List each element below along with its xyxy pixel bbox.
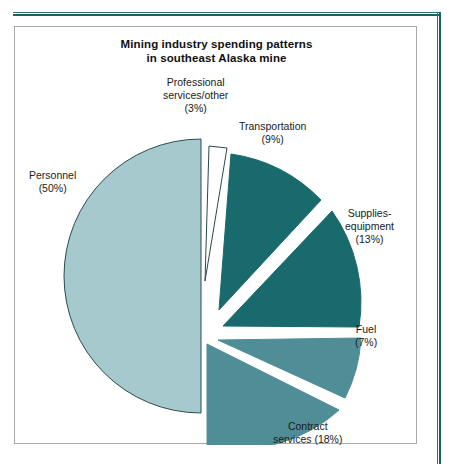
slice-label-supplies-equipment-name-2: equipment: [345, 220, 394, 233]
slice-label-supplies-equipment: Supplies- equipment (13%): [345, 207, 394, 246]
slice-label-professional-services-pct: (3%): [163, 102, 228, 115]
frame-rule-right-thick: [439, 12, 441, 464]
slice-label-professional-services-name-2: services/other: [163, 89, 228, 102]
slice-label-supplies-equipment-pct: (13%): [345, 233, 394, 246]
slice-label-fuel-pct: (7%): [355, 336, 377, 349]
slice-label-fuel: Fuel (7%): [355, 323, 377, 349]
slice-label-contract-services: Contract services (18%): [273, 420, 342, 446]
slice-label-personnel-pct: (50%): [29, 182, 76, 195]
slice-label-transportation-pct: (9%): [239, 133, 306, 146]
slice-label-professional-services-name-1: Professional: [163, 76, 228, 89]
frame-rule-top-thin: [13, 12, 439, 13]
slice-label-transportation-name: Transportation: [239, 120, 306, 133]
frame-rule-right-thin: [437, 12, 438, 464]
slice-label-professional-services: Professional services/other (3%): [163, 76, 228, 115]
slice-label-contract-services-name-2: services (18%): [273, 433, 342, 446]
slice-label-transportation: Transportation (9%): [239, 120, 306, 146]
frame-rule-top-thick: [13, 14, 439, 16]
slice-label-personnel: Personnel (50%): [29, 169, 76, 195]
pie-slice-personnel[interactable]: [64, 139, 201, 413]
slice-label-fuel-name: Fuel: [355, 323, 377, 336]
slice-label-supplies-equipment-name-1: Supplies-: [345, 207, 394, 220]
chart-panel: Mining industry spending patterns in sou…: [14, 26, 417, 444]
slice-label-personnel-name: Personnel: [29, 169, 76, 182]
slice-label-contract-services-name-1: Contract: [273, 420, 342, 433]
